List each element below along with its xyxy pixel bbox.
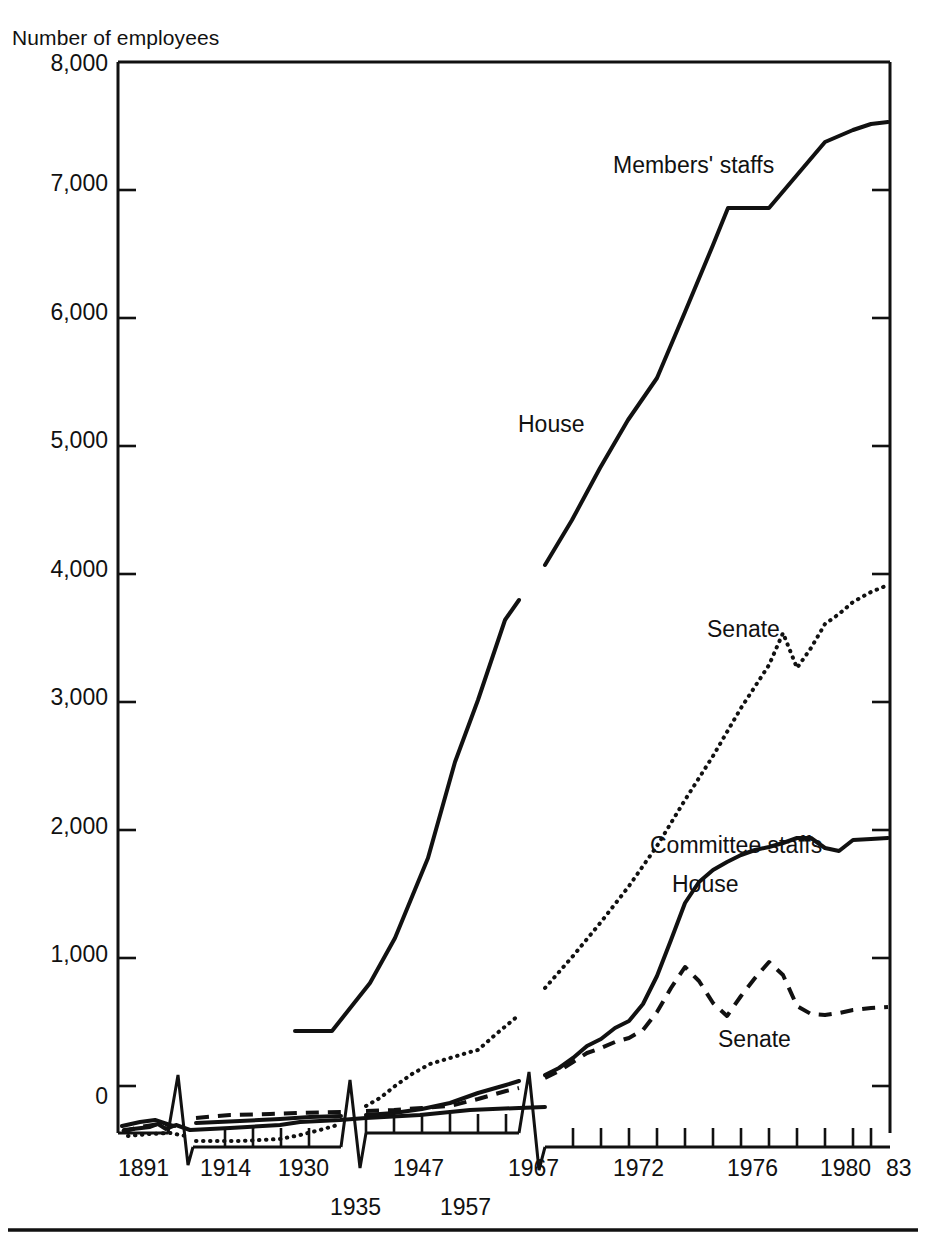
x-tick-label: 1914	[200, 1155, 251, 1181]
y-tick-label: 5,000	[50, 427, 108, 453]
y-axis-tick-labels: 8,000 7,000 6,000 5,000 4,000 3,000 2,00…	[50, 50, 108, 1109]
x-tick-label: 1976	[727, 1155, 778, 1181]
y-tick-label: 4,000	[50, 556, 108, 582]
x-tick-label: 83	[886, 1155, 912, 1181]
x-axis-baseline	[118, 1133, 890, 1147]
x-tick-label-secondary: 1935	[330, 1194, 381, 1220]
y-tick-label: 0	[95, 1083, 108, 1109]
series-label-members-senate: Senate	[707, 616, 780, 642]
series-members-senate	[128, 585, 888, 1141]
x-tick-label: 1947	[393, 1155, 444, 1181]
x-tick-label-secondary: 1957	[440, 1194, 491, 1220]
series-label-committee-house: House	[672, 871, 738, 897]
x-axis-ticks-segment-b	[225, 1128, 309, 1147]
series-label-members-house: House	[518, 411, 584, 437]
x-tick-label: 1891	[118, 1155, 169, 1181]
y-axis-ticks-right	[872, 190, 890, 1086]
series-committee-house	[122, 838, 888, 1126]
chart-figure: Number of employees 8,000 7,000 6,000 5,…	[0, 0, 926, 1242]
y-tick-label: 3,000	[50, 684, 108, 710]
x-tick-label: 1980	[820, 1155, 871, 1181]
y-tick-label: 1,000	[50, 941, 108, 967]
y-tick-label: 7,000	[50, 170, 108, 196]
x-axis-tick-labels-secondary: 1935 1957	[330, 1194, 491, 1220]
x-tick-label: 1972	[613, 1155, 664, 1181]
series-label-committee-senate: Senate	[718, 1026, 791, 1052]
series-label-members-staffs: Members' staffs	[613, 152, 774, 178]
x-axis-ticks-segment-d	[573, 1128, 871, 1147]
x-tick-label: 1930	[278, 1155, 329, 1181]
y-tick-label: 8,000	[50, 50, 108, 76]
line-chart-svg: 8,000 7,000 6,000 5,000 4,000 3,000 2,00…	[0, 0, 926, 1242]
y-tick-label: 2,000	[50, 813, 108, 839]
y-axis-title: Number of employees	[12, 26, 219, 50]
x-tick-label: 1967	[508, 1155, 559, 1181]
series-label-committee-staffs: Committee staffs	[650, 832, 822, 858]
y-axis-ticks	[118, 190, 136, 1086]
y-tick-label: 6,000	[50, 299, 108, 325]
x-axis-tick-labels: 1891 1914 1930 1947 1967 1972 1976 1980 …	[118, 1155, 912, 1181]
